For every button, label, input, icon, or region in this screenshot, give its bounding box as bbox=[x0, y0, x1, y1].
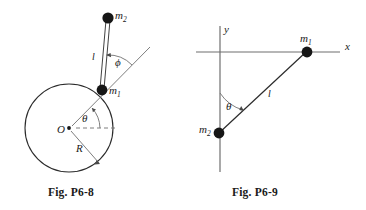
label-axis-y: y bbox=[223, 23, 229, 35]
label-m1-subscript: 1 bbox=[117, 90, 121, 99]
label-R: R bbox=[75, 142, 83, 154]
label-phi: ϕ bbox=[115, 56, 121, 68]
label-m1-subscript: 1 bbox=[308, 38, 312, 47]
mass-m2-dot bbox=[214, 128, 225, 139]
label-theta: θ bbox=[226, 100, 232, 112]
label-axis-x: x bbox=[344, 40, 350, 52]
label-O: O bbox=[57, 123, 65, 135]
mass-m1-dot bbox=[302, 47, 313, 58]
label-m1: m bbox=[109, 84, 117, 96]
mass-m2-dot bbox=[102, 12, 113, 23]
label-m2: m bbox=[115, 9, 123, 21]
label-m2-subscript: 2 bbox=[207, 129, 211, 138]
rod-line bbox=[219, 52, 306, 133]
label-rod-length: l bbox=[92, 51, 95, 62]
angle-theta-arc bbox=[220, 93, 243, 110]
figure-p6-8: θ R O ϕ l m 1 m 2 bbox=[0, 0, 183, 182]
label-m1: m bbox=[300, 32, 308, 44]
label-rod-length: l bbox=[268, 88, 271, 99]
figure-sheet: θ R O ϕ l m 1 m 2 x y l bbox=[0, 0, 366, 210]
angle-theta-arrowhead bbox=[239, 106, 244, 111]
figure-p6-9: x y l θ m 1 m 2 bbox=[183, 0, 366, 182]
label-m2-subscript: 2 bbox=[123, 15, 127, 24]
center-point-O bbox=[67, 126, 71, 130]
label-theta: θ bbox=[82, 112, 88, 124]
figure-caption-right: Fig. P6-9 bbox=[232, 186, 278, 198]
figure-caption-left: Fig. P6-8 bbox=[48, 186, 94, 198]
label-m2: m bbox=[199, 123, 207, 135]
angle-theta-arrowhead bbox=[92, 108, 96, 112]
mass-m1-dot bbox=[97, 85, 108, 96]
